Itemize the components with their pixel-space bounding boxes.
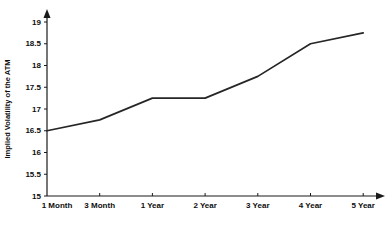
y-tick-label: 15.5 (25, 170, 41, 179)
line-chart: 1515.51616.51717.51818.5191 Month3 Month… (0, 0, 390, 226)
x-tick-label: 3 Month (84, 201, 115, 210)
x-tick-label: 3 Year (246, 201, 269, 210)
y-tick-label: 18 (32, 61, 41, 70)
x-tick-label: 4 Year (299, 201, 322, 210)
y-axis-arrow-icon (44, 9, 51, 18)
y-tick-label: 17.5 (25, 83, 41, 92)
y-tick-label: 17 (32, 105, 41, 114)
x-tick-label: 1 Year (141, 201, 164, 210)
y-axis-title: Implied Volatility of the ATM (3, 59, 12, 158)
x-tick-label: 5 Year (351, 201, 374, 210)
chart-container: 1515.51616.51717.51818.5191 Month3 Month… (0, 0, 390, 226)
x-tick-label: 2 Year (193, 201, 216, 210)
x-axis-arrow-icon (376, 193, 385, 200)
y-tick-label: 16.5 (25, 126, 41, 135)
y-tick-label: 15 (32, 192, 41, 201)
data-series-line (47, 33, 363, 131)
x-tick-label: 1 Month (42, 201, 73, 210)
y-tick-label: 19 (32, 18, 41, 27)
y-tick-label: 16 (32, 148, 41, 157)
y-tick-label: 18.5 (25, 39, 41, 48)
